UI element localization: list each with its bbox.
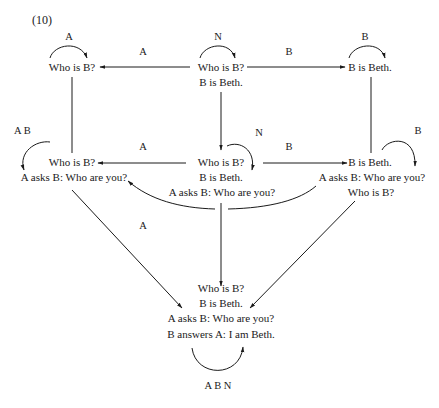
self-loop-arrow-top-center	[200, 46, 235, 58]
node-text: B is Beth.	[348, 156, 392, 168]
self-loop-arrow-top-right	[349, 46, 385, 58]
edge-mid-right-to-bottom	[250, 201, 355, 308]
node-text: B answers A: I am Beth.	[167, 328, 275, 340]
loop-label-mid-left: A B	[14, 125, 31, 136]
figure-number: (10)	[32, 13, 52, 27]
loop-label-bottom: A B N	[205, 380, 232, 391]
node-text: B is Beth.	[199, 171, 243, 183]
edge-mid-left-to-bottom	[72, 190, 182, 308]
edge-label: B	[285, 141, 292, 152]
edge-label: N	[255, 127, 263, 138]
node-text: A asks B: Who are you?	[169, 186, 276, 198]
loop-label-top-left: A	[65, 31, 73, 42]
node-text: Who is B?	[49, 156, 96, 168]
node-text: Who is B?	[198, 156, 245, 168]
node-text: Who is B?	[348, 186, 395, 198]
node-mid-center: Who is B? B is Beth. A asks B: Who are y…	[169, 144, 276, 198]
node-text: B is Beth.	[199, 297, 243, 309]
node-mid-left: A B Who is B? A asks B: Who are you?	[14, 125, 127, 183]
node-top-left: A Who is B?	[49, 31, 96, 73]
edge-label: B	[285, 46, 292, 57]
loop-label-mid-right: B	[414, 125, 421, 136]
loop-label-top-center: N	[214, 31, 222, 42]
self-loop-arrow-top-left	[50, 46, 87, 58]
node-text: Who is B?	[198, 282, 245, 294]
edge-label: A	[139, 220, 147, 231]
node-text: A asks B: Who are you?	[21, 171, 128, 183]
node-mid-right: B B is Beth. A asks B: Who are you? Who …	[319, 125, 426, 198]
state-diagram: (10) A Who is B? N Who is B? B is Beth. …	[0, 0, 439, 408]
node-text: A asks B: Who are you?	[168, 312, 275, 324]
self-loop-arrow-bottom	[192, 347, 243, 370]
edge-label: A	[139, 46, 147, 57]
node-top-center: N Who is B? B is Beth.	[198, 31, 245, 88]
loop-label-top-right: B	[361, 31, 368, 42]
node-text: B is Beth.	[348, 61, 392, 73]
node-text: Who is B?	[198, 61, 245, 73]
self-loop-arrow-mid-left	[23, 142, 50, 170]
node-text: A asks B: Who are you?	[319, 171, 426, 183]
node-text: B is Beth.	[199, 76, 243, 88]
node-top-right: B B is Beth.	[348, 31, 392, 73]
node-text: Who is B?	[49, 61, 96, 73]
edge-label: A	[139, 141, 147, 152]
